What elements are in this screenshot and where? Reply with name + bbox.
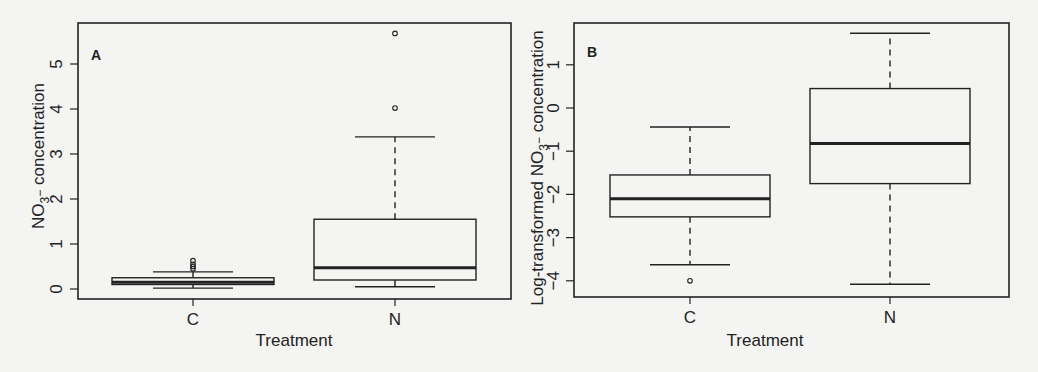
x-tick-label-n: N bbox=[884, 308, 896, 327]
y-tick-label: 4 bbox=[47, 104, 66, 113]
iqr-box bbox=[810, 89, 970, 184]
svg-text:Log-transformed NO3− concentra: Log-transformed NO3− concentration bbox=[528, 30, 551, 305]
panel-b-letter: B bbox=[587, 44, 597, 60]
y-tick-label: 3 bbox=[47, 149, 66, 158]
panel-a-nitrate-boxplot: 012345CN A Treatment NO3− concentration bbox=[0, 0, 519, 372]
outlier-point bbox=[393, 31, 398, 36]
box-n bbox=[314, 31, 476, 287]
iqr-box bbox=[314, 219, 476, 280]
x-tick-label-n: N bbox=[389, 310, 401, 329]
panel-b-plot: 10−1−2−3−4CN bbox=[544, 23, 1009, 327]
panel-b-svg: 10−1−2−3−4CN B Treatment Log-transformed… bbox=[519, 0, 1038, 372]
panel-a-plot: 012345CN bbox=[47, 23, 511, 329]
outlier-point bbox=[688, 279, 693, 284]
panel-a-x-axis-title: Treatment bbox=[256, 331, 333, 350]
x-tick-label-c: C bbox=[684, 308, 696, 327]
panel-b-x-axis-title: Treatment bbox=[727, 331, 804, 350]
panel-a-letter: A bbox=[91, 47, 101, 63]
panel-a-svg: 012345CN A Treatment NO3− concentration bbox=[0, 0, 519, 372]
iqr-box bbox=[610, 175, 770, 217]
box-c bbox=[610, 127, 770, 283]
box-c bbox=[112, 258, 274, 288]
box-n bbox=[810, 33, 970, 284]
y-tick-label: 5 bbox=[47, 59, 66, 68]
x-tick-label-c: C bbox=[187, 310, 199, 329]
panel-b-y-axis-title: Log-transformed NO3− concentration bbox=[528, 30, 551, 305]
y-tick-label: 1 bbox=[47, 239, 66, 248]
outlier-point bbox=[393, 106, 398, 111]
panel-b-log-nitrate-boxplot: 10−1−2−3−4CN B Treatment Log-transformed… bbox=[519, 0, 1038, 372]
y-tick-label: 0 bbox=[47, 284, 66, 293]
